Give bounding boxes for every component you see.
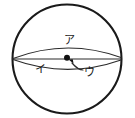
label-u: ウ	[84, 66, 95, 79]
circle-diagram-figure: ア イ ウ	[0, 0, 135, 118]
circle-diagram-canvas: ア イ ウ	[0, 0, 135, 118]
arrowhead-icon	[69, 59, 74, 63]
center-dot	[64, 55, 70, 61]
label-i: イ	[35, 63, 46, 76]
label-a: ア	[64, 34, 75, 47]
lower-arc	[13, 60, 121, 70]
